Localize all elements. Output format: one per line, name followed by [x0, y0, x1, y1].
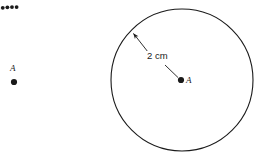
radius-measure-label: 2 cm	[146, 51, 169, 61]
point-a-left-dot	[11, 79, 17, 85]
arc-dot	[10, 5, 14, 9]
radius-leader-line	[165, 65, 178, 78]
figure-canvas	[0, 0, 259, 162]
point-a-center-dot	[178, 77, 184, 83]
point-a-left-label: A	[10, 64, 16, 73]
radius-arrow-line	[134, 34, 149, 53]
point-a-right-label: A	[186, 76, 192, 85]
arc-dot	[5, 5, 9, 9]
arc-dot	[15, 5, 19, 9]
arc-dot	[1, 6, 5, 10]
geometry-figure: A A 2 cm	[0, 0, 259, 162]
